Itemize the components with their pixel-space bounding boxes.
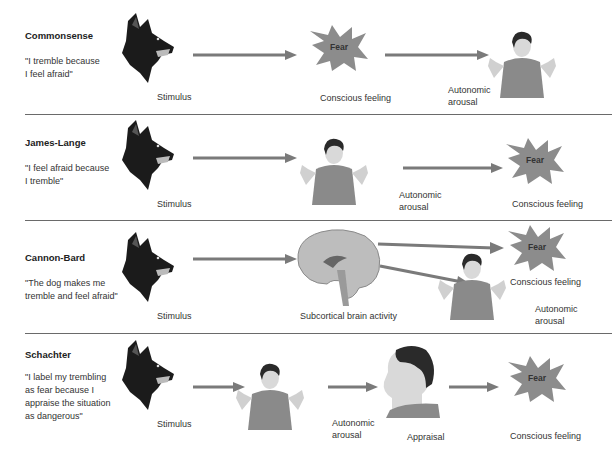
arrow-icon (403, 163, 513, 175)
fear-starburst-icon: Fear (508, 356, 568, 404)
fear-starburst-icon: Fear (310, 25, 370, 73)
svg-text:Fear: Fear (526, 155, 545, 165)
row-divider (25, 333, 612, 334)
stimulus-label: Stimulus (157, 310, 192, 322)
stimulus-label: Stimulus (157, 198, 192, 210)
autonomic-arousal-label: Autonomic arousal (448, 84, 491, 108)
row-title: Cannon-Bard (25, 252, 85, 263)
svg-text:Fear: Fear (528, 242, 547, 252)
row-quote: "I tremble because I feel afraid" (25, 55, 100, 81)
dog-head-icon (118, 232, 178, 304)
stimulus-label: Stimulus (157, 91, 192, 103)
autonomic-arousal-label: Autonomic arousal (535, 303, 578, 327)
brain-activity-label: Subcortical brain activity (300, 310, 397, 322)
stimulus-label: Stimulus (157, 418, 192, 430)
row-title: Schachter (25, 349, 71, 360)
conscious-feeling-label: Conscious feeling (510, 430, 581, 442)
conscious-feeling-label: Conscious feeling (510, 276, 581, 288)
arrow-icon (193, 254, 303, 266)
row-quote: "I feel afraid because I tremble" (25, 162, 109, 188)
arrow-icon (328, 382, 388, 394)
trembling-man-icon (236, 360, 306, 440)
trembling-man-icon (300, 135, 370, 215)
person-profile-icon (382, 342, 442, 418)
row-quote: "The dog makes me tremble and feel afrai… (25, 277, 118, 303)
dog-head-icon (118, 13, 178, 85)
arrow-icon (449, 382, 509, 394)
arrow-icon (385, 50, 495, 62)
arrow-icon (193, 153, 303, 165)
row-quote: "I label my trembling as fear because I … (25, 371, 111, 423)
conscious-feeling-label: Conscious feeling (320, 92, 391, 104)
row-divider (25, 114, 612, 115)
autonomic-arousal-label: Autonomic arousal (399, 189, 442, 213)
fear-starburst-icon: Fear (506, 138, 566, 186)
row-divider (25, 220, 612, 221)
arrow-icon (193, 50, 303, 62)
fear-starburst-icon: Fear (508, 225, 568, 273)
conscious-feeling-label: Conscious feeling (512, 198, 583, 210)
appraisal-label: Appraisal (407, 431, 445, 443)
row-title: Commonsense (25, 30, 93, 41)
svg-text:Fear: Fear (330, 42, 349, 52)
dog-head-icon (118, 340, 178, 412)
row-title: James-Lange (25, 137, 86, 148)
trembling-man-icon (488, 28, 558, 108)
dog-head-icon (118, 120, 178, 192)
trembling-man-icon (438, 250, 508, 330)
svg-text:Fear: Fear (528, 373, 547, 383)
brain-icon (293, 226, 383, 308)
autonomic-arousal-label: Autonomic arousal (332, 417, 375, 441)
